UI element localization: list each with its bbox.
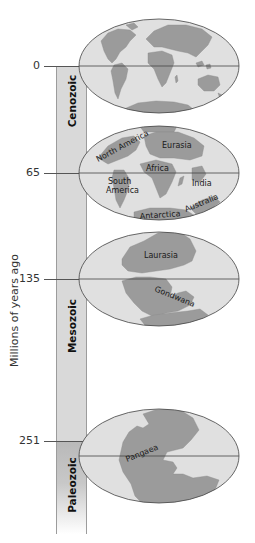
tick-label-251: 251 (4, 434, 40, 447)
map-251-mya: Pangaea (79, 408, 241, 506)
tick-label-0: 0 (4, 59, 40, 72)
era-label-mesozoic: Mesozoic (66, 276, 78, 376)
label-laurasia: Laurasia (144, 251, 178, 260)
map-present-day (78, 17, 240, 115)
map-65-mya: North America Eurasia Africa South Ameri… (78, 124, 240, 222)
map-135-mya: Laurasia Gondwana (78, 231, 240, 329)
era-label-cenozoic: Cenozoic (66, 51, 78, 151)
label-eurasia: Eurasia (162, 141, 192, 150)
label-south-america-line1: South (108, 177, 131, 186)
tick-label-65: 65 (4, 166, 40, 179)
y-axis-label: Millions of years ago (8, 241, 21, 381)
era-label-paleozoic: Paleozoic (66, 435, 78, 535)
label-india: India (192, 179, 212, 188)
label-south-america-line2: America (106, 186, 139, 195)
label-africa: Africa (146, 164, 169, 173)
